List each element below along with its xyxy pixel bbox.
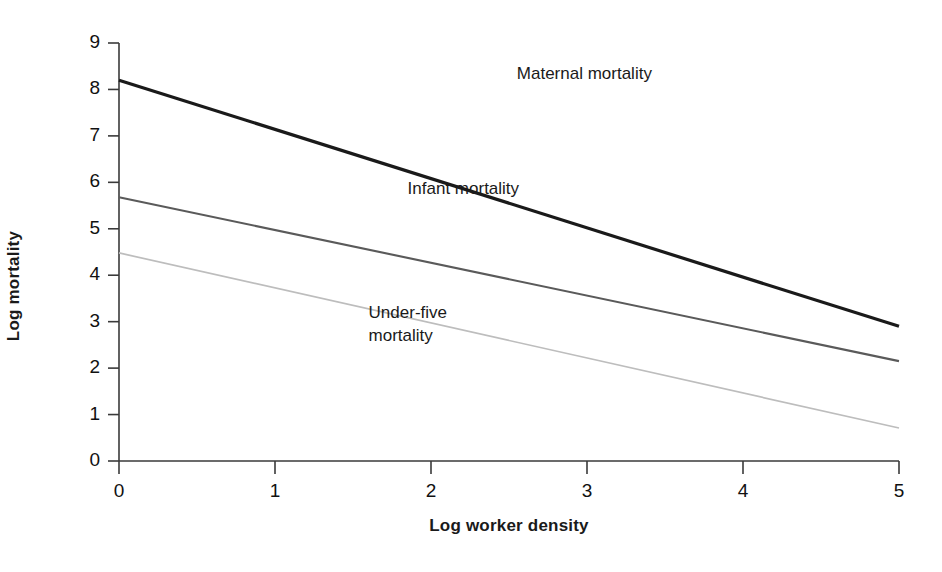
chart-container: Log mortality Log worker density 0123456… bbox=[0, 0, 942, 572]
x-axis-tick-label: 2 bbox=[416, 480, 446, 502]
y-axis-tick-label: 8 bbox=[74, 77, 100, 99]
series-line-1 bbox=[119, 80, 899, 326]
chart-plot-area bbox=[0, 0, 942, 572]
y-axis-tick-label: 9 bbox=[74, 31, 100, 53]
series-label-3: Under-five mortality bbox=[369, 302, 447, 347]
y-axis-tick-label: 2 bbox=[74, 356, 100, 378]
series-label-1: Maternal mortality bbox=[517, 63, 652, 85]
x-axis-tick-label: 5 bbox=[884, 480, 914, 502]
y-axis-tick-label: 3 bbox=[74, 310, 100, 332]
series-label-2: Infant mortality bbox=[408, 178, 520, 200]
x-axis-title: Log worker density bbox=[119, 516, 899, 536]
y-axis-tick-label: 4 bbox=[74, 263, 100, 285]
y-axis-title-label: Log mortality bbox=[4, 231, 24, 341]
x-axis-tick-label: 4 bbox=[728, 480, 758, 502]
x-axis-tick-label: 0 bbox=[104, 480, 134, 502]
y-axis-tick-label: 6 bbox=[74, 170, 100, 192]
y-axis-title: Log mortality bbox=[0, 0, 34, 572]
y-axis-tick-label: 1 bbox=[74, 403, 100, 425]
x-axis-tick-label: 3 bbox=[572, 480, 602, 502]
y-axis-tick-label: 5 bbox=[74, 217, 100, 239]
y-axis-tick-label: 0 bbox=[74, 449, 100, 471]
y-axis-tick-label: 7 bbox=[74, 124, 100, 146]
x-axis-tick-label: 1 bbox=[260, 480, 290, 502]
